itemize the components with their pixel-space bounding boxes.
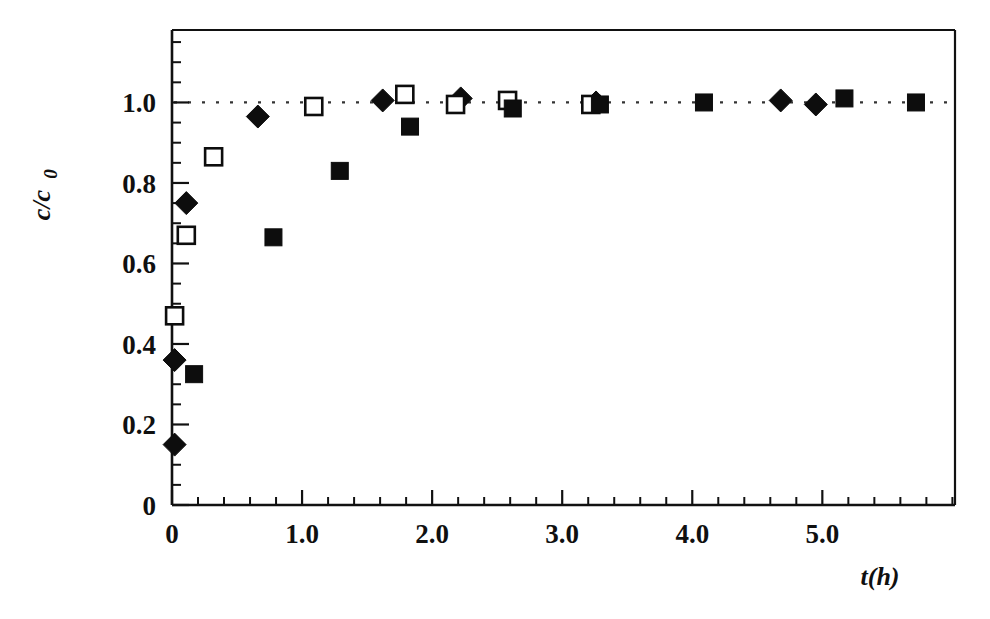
x-axis-title: t(h) [861,562,900,591]
marker-filled-square [504,100,521,117]
x-tick-label: 2.0 [415,519,449,549]
x-tick-label: 4.0 [675,519,709,549]
marker-filled-square [186,366,203,383]
marker-filled-diamond [163,433,186,456]
y-axis-title-main: c/c [27,189,56,220]
chart-figure: 00.20.40.60.81.001.02.03.04.05.0t(h)c/c0 [0,0,990,619]
filled-diamond-series [163,87,827,456]
y-axis-title-subscript: 0 [40,169,61,179]
scatter-plot: 00.20.40.60.81.001.02.03.04.05.0t(h)c/c0 [0,0,990,619]
marker-filled-diamond [175,192,198,215]
y-tick-label: 0.8 [122,169,156,199]
x-tick-label: 1.0 [285,519,319,549]
marker-open-square [205,148,222,165]
filled-square-series [186,90,925,383]
x-tick-label: 5.0 [805,519,839,549]
marker-filled-diamond [769,89,792,112]
y-tick-label: 0 [143,491,157,521]
x-tick-label: 0 [165,519,179,549]
y-axis-title: c/c0 [27,169,61,220]
marker-open-square [305,98,322,115]
y-tick-label: 1.0 [122,88,156,118]
y-tick-label: 0.4 [122,330,156,360]
marker-filled-diamond [246,105,269,128]
marker-filled-square [402,118,419,135]
marker-filled-square [265,229,282,246]
marker-open-square [396,86,413,103]
marker-filled-diamond [371,89,394,112]
marker-filled-diamond [804,93,827,116]
marker-open-square [447,96,464,113]
y-tick-label: 0.2 [122,410,156,440]
marker-filled-square [695,94,712,111]
marker-filled-square [836,90,853,107]
x-tick-label: 3.0 [545,519,579,549]
marker-open-square [166,307,183,324]
marker-filled-square [591,96,608,113]
marker-filled-square [907,94,924,111]
y-tick-label: 0.6 [122,249,156,279]
marker-open-square [178,227,195,244]
marker-filled-square [331,162,348,179]
marker-filled-diamond [163,349,186,372]
open-square-series [166,86,599,324]
